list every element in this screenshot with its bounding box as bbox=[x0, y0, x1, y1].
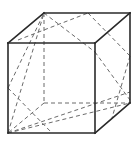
cube-figure bbox=[0, 0, 140, 144]
dashed-line bbox=[8, 92, 130, 133]
hidden-and-section-lines bbox=[8, 13, 130, 133]
dashed-line bbox=[95, 52, 130, 100]
cube-diagram bbox=[0, 0, 140, 144]
dashed-line bbox=[8, 103, 44, 133]
dashed-line bbox=[44, 13, 95, 52]
dashed-line bbox=[8, 13, 44, 88]
cube-edge bbox=[8, 13, 44, 43]
visible-edges bbox=[8, 13, 130, 133]
dashed-line bbox=[8, 13, 44, 133]
